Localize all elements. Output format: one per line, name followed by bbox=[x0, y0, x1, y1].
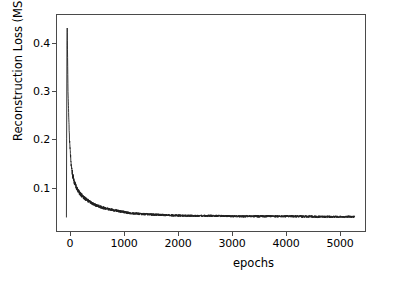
x-tick-label: 3000 bbox=[218, 238, 245, 249]
x-tick-label: 5000 bbox=[326, 238, 353, 249]
x-tick-mark bbox=[178, 232, 179, 236]
x-tick-label: 4000 bbox=[272, 238, 299, 249]
y-tick-label: 0.3 bbox=[33, 86, 50, 97]
x-tick-label: 0 bbox=[67, 238, 74, 249]
plot-area bbox=[56, 14, 366, 232]
x-tick-label: 1000 bbox=[110, 238, 137, 249]
x-axis-label-text: epochs bbox=[233, 256, 274, 270]
x-axis-label: epochs bbox=[0, 256, 397, 270]
figure: Reconstruction Loss (MSE) 0.4 0.3 0.2 0.… bbox=[0, 0, 397, 283]
x-tick-label: 2000 bbox=[164, 238, 191, 249]
loss-curve-line bbox=[66, 28, 354, 218]
y-axis-label: Reconstruction Loss (MSE) bbox=[11, 0, 25, 165]
x-tick-mark bbox=[124, 232, 125, 236]
x-tick-mark bbox=[232, 232, 233, 236]
x-tick-mark bbox=[70, 232, 71, 236]
y-tick-label: 0.1 bbox=[33, 183, 50, 194]
x-tick-mark bbox=[340, 232, 341, 236]
loss-curve-svg bbox=[57, 15, 365, 231]
y-tick-label: 0.2 bbox=[33, 134, 50, 145]
x-tick-mark bbox=[286, 232, 287, 236]
y-tick-label: 0.4 bbox=[33, 38, 50, 49]
